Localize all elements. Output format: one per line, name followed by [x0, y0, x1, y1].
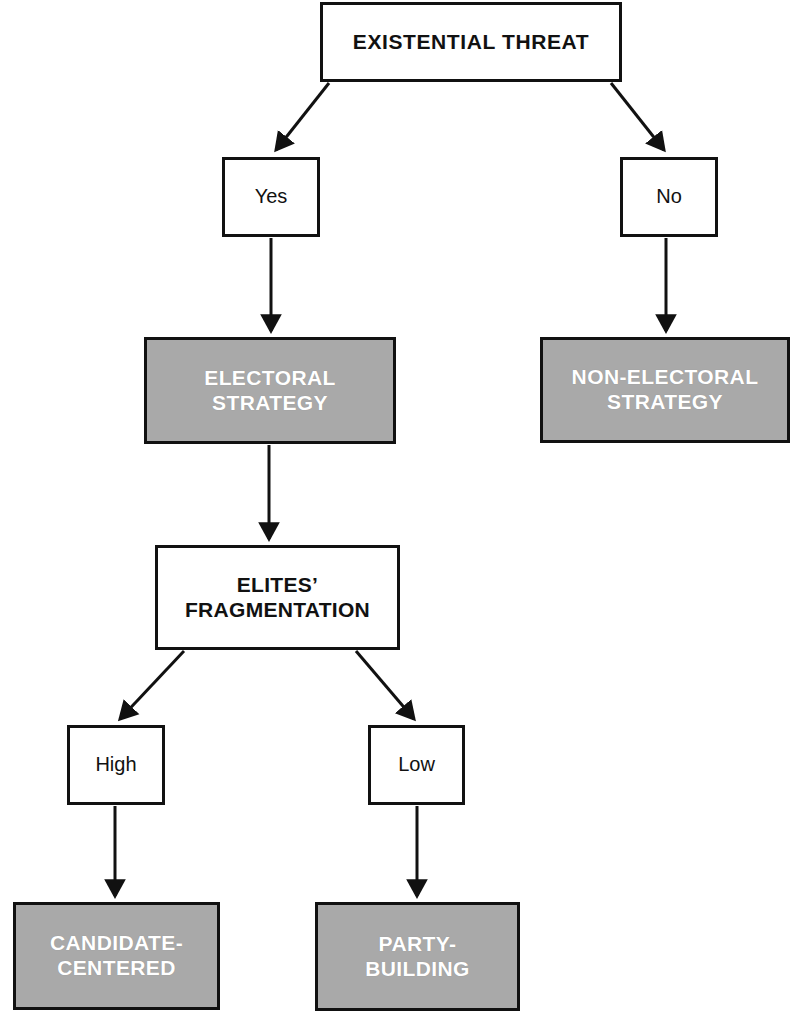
node-elites-fragmentation[interactable]: ELITES’ FRAGMENTATION [155, 545, 400, 650]
node-elites-fragmentation-label: ELITES’ FRAGMENTATION [179, 573, 376, 623]
node-electoral-strategy[interactable]: ELECTORAL STRATEGY [144, 337, 396, 444]
node-no[interactable]: No [620, 157, 718, 237]
edge-elites-fragmentation-to-high [120, 651, 184, 719]
node-candidate-centered-label: CANDIDATE- CENTERED [44, 931, 189, 981]
node-yes[interactable]: Yes [222, 157, 320, 237]
node-low-label: Low [392, 753, 441, 777]
node-low[interactable]: Low [368, 725, 465, 805]
edge-existential-threat-to-no [611, 83, 664, 150]
node-no-label: No [650, 185, 688, 209]
node-non-electoral-strategy-label: NON-ELECTORAL STRATEGY [566, 365, 765, 415]
node-existential-threat-label: EXISTENTIAL THREAT [347, 30, 595, 55]
edge-layer [0, 0, 799, 1027]
node-electoral-strategy-label: ELECTORAL STRATEGY [198, 366, 342, 416]
node-candidate-centered[interactable]: CANDIDATE- CENTERED [13, 902, 220, 1010]
node-party-building-label: PARTY- BUILDING [359, 932, 476, 982]
node-yes-label: Yes [249, 185, 294, 209]
node-party-building[interactable]: PARTY- BUILDING [315, 902, 520, 1011]
flowchart-canvas: EXISTENTIAL THREAT Yes No ELECTORAL STRA… [0, 0, 799, 1027]
node-high[interactable]: High [67, 725, 165, 805]
edge-elites-fragmentation-to-low [356, 651, 414, 719]
node-existential-threat[interactable]: EXISTENTIAL THREAT [320, 2, 622, 82]
node-high-label: High [89, 753, 142, 777]
node-non-electoral-strategy[interactable]: NON-ELECTORAL STRATEGY [540, 337, 790, 443]
edge-existential-threat-to-yes [276, 83, 329, 150]
